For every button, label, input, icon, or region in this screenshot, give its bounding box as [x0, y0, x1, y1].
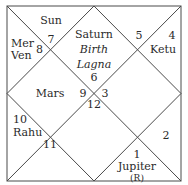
sign-number-house-2: 7	[48, 33, 55, 46]
house-9: 2	[163, 129, 170, 142]
lagna-label: Lagna	[76, 58, 112, 71]
sign-number-house-7: 12	[87, 98, 101, 111]
planet-mars: Mars	[36, 87, 65, 100]
planet-sun: Sun	[40, 14, 62, 27]
house-7: 12	[87, 98, 101, 111]
house-6: 11	[43, 138, 57, 151]
retrograde-marker: (R)	[130, 173, 144, 183]
house-8: 1 Jupiter (R)	[117, 148, 157, 183]
planet-ven: Ven	[10, 49, 32, 62]
birth-label: Birth	[79, 43, 108, 56]
sign-number-house-9: 2	[163, 129, 170, 142]
house-10: 3	[102, 87, 109, 100]
planet-ketu: Ketu	[150, 43, 176, 56]
house-12: 5	[136, 29, 143, 42]
planet-saturn: Saturn	[75, 28, 113, 41]
house-1: Saturn Birth Lagna 6	[75, 28, 113, 84]
sign-number-house-4: 9	[80, 87, 87, 100]
sign-number-house-11: 4	[169, 29, 176, 42]
planet-rahu: Rahu	[13, 126, 42, 139]
house-4: Mars 9	[36, 87, 87, 100]
rasi-chart: Saturn Birth Lagna 6 Sun 7 Mer Ven 8 Mar…	[0, 0, 188, 185]
sign-number-house-1: 6	[91, 71, 98, 84]
house-5: 10 Rahu	[13, 113, 42, 139]
sign-number-house-3: 8	[36, 43, 43, 56]
house-3: Mer Ven 8	[10, 37, 43, 62]
planet-jupiter: Jupiter	[117, 160, 157, 173]
sign-number-house-6: 11	[43, 138, 57, 151]
sign-number-house-5: 10	[13, 113, 27, 126]
sign-number-house-12: 5	[136, 29, 143, 42]
sign-number-house-10: 3	[102, 87, 109, 100]
